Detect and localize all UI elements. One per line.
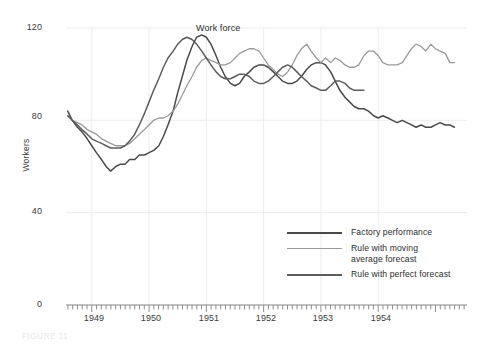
series-line-rule-with-moving-average-forecast [68, 44, 455, 146]
series-line-factory-performance [68, 35, 455, 171]
legend-line-swatch-factory-performance [287, 227, 342, 238]
y-tick-label-120: 120 [8, 22, 42, 32]
chart-plot-area [0, 0, 491, 345]
x-tick-label-1949: 1949 [71, 313, 117, 323]
legend-label-factory-performance: Factory performance [351, 227, 432, 238]
legend-item-rule-perfect-forecast: Rule with perfect forecast [287, 269, 477, 280]
x-tick-label-1954: 1954 [358, 313, 404, 323]
work-force-annotation: Work force [196, 23, 240, 33]
legend-item-rule-moving-average: Rule with moving average forecast [287, 243, 477, 264]
chart-legend: Factory performance Rule with moving ave… [287, 227, 477, 285]
y-axis-title: Workers [21, 115, 31, 195]
x-tick-label-1953: 1953 [300, 313, 346, 323]
x-tick-label-1952: 1952 [243, 313, 289, 323]
y-tick-label-80: 80 [8, 111, 42, 121]
legend-line-swatch-rule-moving-average [287, 243, 342, 254]
x-tick-label-1950: 1950 [128, 313, 174, 323]
y-tick-label-40: 40 [8, 206, 42, 216]
legend-label-rule-moving-average: Rule with moving average forecast [351, 243, 418, 264]
y-tick-label-0: 0 [8, 299, 42, 309]
figure-caption: FIGURE 11 [22, 331, 68, 341]
x-tick-label-1951: 1951 [186, 313, 232, 323]
legend-item-factory-performance: Factory performance [287, 227, 477, 238]
legend-line-swatch-rule-perfect-forecast [287, 269, 342, 280]
figure-container: Workers 120 80 40 0 1949 1950 1951 1952 … [0, 0, 491, 345]
legend-label-rule-perfect-forecast: Rule with perfect forecast [351, 269, 451, 280]
